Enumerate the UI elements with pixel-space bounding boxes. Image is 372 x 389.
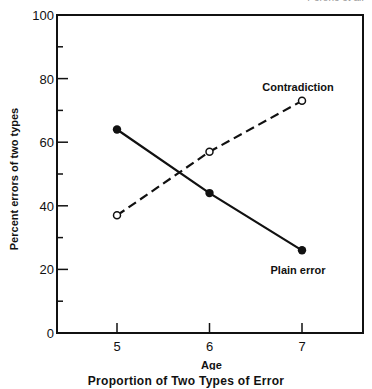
series-line-contradiction [117, 101, 302, 215]
plot-border [57, 15, 363, 333]
y-tick-label: 100 [32, 8, 54, 23]
series-annotation: Plain error [270, 264, 326, 276]
x-tick-label: 7 [298, 339, 305, 354]
filled-circle-marker [113, 125, 121, 133]
filled-circle-marker [298, 246, 306, 254]
x-tick-label: 5 [113, 339, 120, 354]
series-lines: ContradictionPlain error [113, 81, 334, 276]
y-tick-label: 80 [40, 72, 54, 87]
plot-frame [57, 15, 363, 333]
line-chart: 020406080100567 ContradictionPlain error… [0, 0, 372, 370]
x-tick-label: 6 [206, 339, 213, 354]
filled-circle-marker [205, 189, 213, 197]
y-tick-label: 60 [40, 135, 54, 150]
x-axis-title: Age [201, 359, 222, 370]
y-tick-label: 20 [40, 262, 54, 277]
series-annotation: Contradiction [262, 81, 334, 93]
open-circle-marker [114, 212, 121, 219]
open-circle-marker [206, 148, 213, 155]
open-circle-marker [299, 97, 306, 104]
axis-ticks: 020406080100567 [32, 8, 305, 354]
y-tick-label: 0 [47, 326, 54, 341]
y-tick-label: 40 [40, 199, 54, 214]
y-axis-title: Percent errors of two types [8, 108, 20, 250]
figure-caption: Proportion of Two Types of Error [0, 374, 372, 388]
